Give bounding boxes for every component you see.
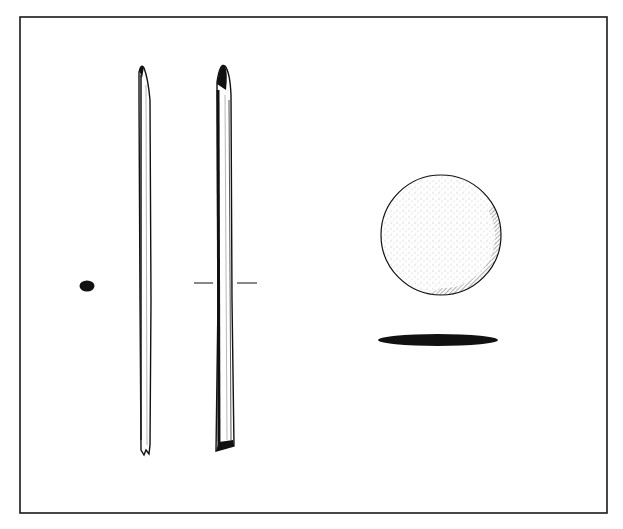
- disc-section-view: [378, 334, 498, 346]
- disc-plan-view: [381, 175, 520, 308]
- pin-side-view: [139, 66, 151, 455]
- pin-front-view: [216, 65, 234, 451]
- artifact-drawing: [0, 0, 623, 529]
- pin-cross-section: [80, 281, 95, 292]
- figure-frame: [20, 17, 607, 513]
